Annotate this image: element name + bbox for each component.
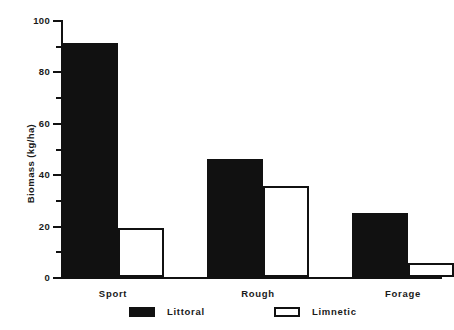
x-axis-line (61, 277, 442, 279)
filled-square-icon (129, 307, 155, 317)
y-tick-label-20: 20 (4, 221, 50, 232)
legend-label-limnetic: Limnetic (312, 306, 357, 317)
y-tick-80 (53, 71, 62, 73)
y-tick-60 (53, 123, 62, 125)
y-tick-20 (53, 226, 62, 228)
bar-rough-littoral (207, 159, 263, 277)
y-tick-0 (53, 277, 62, 279)
x-tick-label-rough: Rough (228, 288, 288, 299)
y-tick-40 (53, 174, 62, 176)
plot-area: 100 80 60 40 20 0 Sport Rough Forage (62, 20, 442, 277)
y-axis-title: Biomass (kg/ha) (25, 84, 36, 244)
legend-item-littoral: Littoral (129, 306, 205, 317)
y-tick-100 (53, 20, 62, 22)
bar-rough-limnetic (263, 186, 309, 277)
y-tick-label-40: 40 (4, 169, 50, 180)
legend-label-littoral: Littoral (167, 306, 205, 317)
y-tick-label-60: 60 (4, 118, 50, 129)
bar-forage-limnetic (408, 263, 454, 277)
bar-sport-limnetic (118, 228, 164, 277)
chart-legend: Littoral Limnetic (0, 306, 454, 326)
y-tick-label-100: 100 (4, 15, 50, 26)
legend-item-limnetic: Limnetic (274, 306, 357, 317)
hollow-square-icon (274, 307, 300, 317)
x-tick-label-forage: Forage (373, 288, 433, 299)
y-tick-label-0: 0 (4, 272, 50, 283)
bar-forage-littoral (352, 213, 408, 277)
x-tick-label-sport: Sport (83, 288, 143, 299)
bar-sport-littoral (62, 43, 118, 277)
bar-chart-figure: Biomass (kg/ha) 100 80 60 40 20 0 (0, 0, 454, 330)
y-tick-label-80: 80 (4, 66, 50, 77)
